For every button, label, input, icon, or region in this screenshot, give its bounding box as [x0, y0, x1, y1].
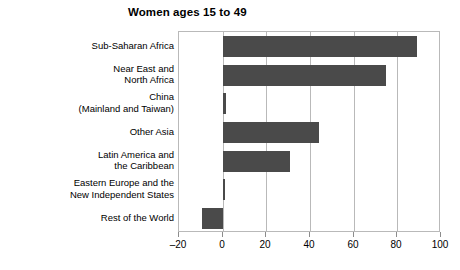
- bar: [223, 151, 291, 172]
- bar: [223, 93, 226, 114]
- category-axis: Sub-Saharan AfricaNear East and North Af…: [0, 31, 174, 232]
- tick-label: 20: [259, 239, 270, 250]
- category-label: China (Mainland and Taiwan): [0, 91, 174, 114]
- gridline-80: [397, 32, 398, 231]
- tick-mark: [353, 232, 354, 237]
- tick-mark: [309, 232, 310, 237]
- bar: [223, 36, 417, 57]
- category-label: Rest of the World: [0, 212, 174, 224]
- category-label: Near East and North Africa: [0, 63, 174, 86]
- tick-mark: [396, 232, 397, 237]
- category-label: Latin America and the Caribbean: [0, 149, 174, 172]
- chart-title: Women ages 15 to 49: [128, 6, 247, 18]
- tick-mark: [440, 232, 441, 237]
- category-label: Eastern Europe and the New Independent S…: [0, 177, 174, 200]
- bar: [223, 179, 225, 200]
- plot-area: [178, 31, 440, 232]
- tick-label: –20: [170, 239, 187, 250]
- tick-label: 100: [432, 239, 449, 250]
- tick-label: 40: [303, 239, 314, 250]
- x-axis-labels: –20020406080100: [178, 239, 440, 255]
- category-label: Other Asia: [0, 126, 174, 138]
- gridline-60: [354, 32, 355, 231]
- x-axis-ticks: [178, 232, 440, 238]
- tick-mark: [265, 232, 266, 237]
- category-label: Sub-Saharan Africa: [0, 40, 174, 52]
- bar: [202, 208, 223, 229]
- bar: [223, 65, 387, 86]
- chart-container: Women ages 15 to 49 Sub-Saharan AfricaNe…: [0, 0, 460, 270]
- tick-label: 60: [347, 239, 358, 250]
- tick-label: 80: [390, 239, 401, 250]
- tick-mark: [178, 232, 179, 237]
- tick-label: 0: [219, 239, 225, 250]
- bar: [223, 122, 319, 143]
- tick-mark: [222, 232, 223, 237]
